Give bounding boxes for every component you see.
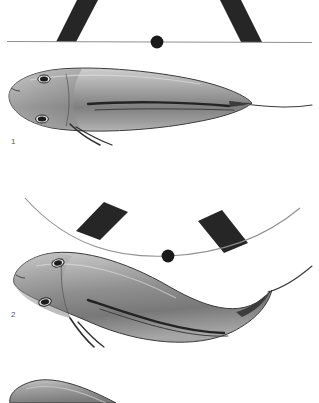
marker-block-right — [220, 0, 262, 42]
fish-straight — [9, 68, 312, 145]
centre-dot-marker — [151, 36, 164, 49]
marker-block-right — [198, 210, 248, 253]
marker-block-left — [56, 0, 98, 42]
panel-1: 1 — [7, 0, 312, 146]
marker-block-left — [76, 202, 128, 240]
figure-canvas: 1 — [0, 0, 319, 403]
fish-curved — [14, 252, 312, 347]
panel-1-markers — [56, 0, 262, 42]
panel-2: 2 — [11, 198, 312, 347]
caudal-filament — [245, 104, 312, 107]
figure-root: 1 — [0, 0, 319, 403]
eye-lower — [36, 115, 49, 123]
fish-cropped-body — [10, 380, 116, 403]
eye-upper — [38, 75, 50, 83]
reference-arc — [25, 198, 300, 256]
panel-2-label: 2 — [11, 310, 16, 319]
caudal-filament — [268, 266, 312, 292]
panel-1-label: 1 — [11, 137, 16, 146]
panel-2-markers — [76, 202, 248, 253]
panel-3 — [10, 380, 116, 403]
centre-dot-marker — [162, 250, 175, 263]
